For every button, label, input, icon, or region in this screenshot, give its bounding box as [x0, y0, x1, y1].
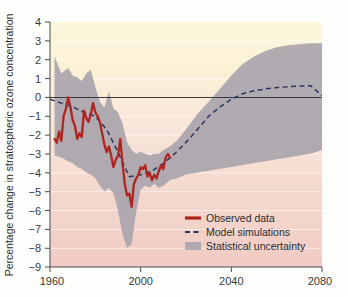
y-axis-title: Percentage change in stratospheric ozone…: [3, 14, 15, 277]
y-tick-label: −8: [28, 242, 41, 254]
y-tick-label: −1: [28, 110, 41, 122]
y-tick-label: 4: [35, 16, 41, 28]
x-tick-label: 2080: [308, 275, 332, 287]
y-tick-label: −6: [28, 205, 41, 217]
y-tick-label: −7: [28, 223, 41, 235]
x-tick-label: 2040: [219, 275, 243, 287]
y-tick-label: −3: [28, 148, 41, 160]
y-tick-label: −4: [28, 167, 41, 179]
x-tick-label: 2000: [128, 275, 152, 287]
chart-canvas: 4 3 2 1 0 −1 −2 −3 −4 −5 −6 −7 −8 −9 196…: [0, 0, 347, 298]
legend-swatch-statistical-uncertainty: [185, 242, 201, 250]
legend-label-observed-data: Observed data: [206, 212, 275, 224]
y-tick-label: −9: [28, 261, 41, 273]
y-tick-label: 1: [35, 73, 41, 85]
legend-label-model-simulations: Model simulations: [206, 226, 290, 238]
legend-label-statistical-uncertainty: Statistical uncertainty: [206, 240, 306, 252]
y-tick-label: 3: [35, 35, 41, 47]
x-tick-label: 1960: [40, 275, 64, 287]
y-tick-label: −5: [28, 186, 41, 198]
ozone-chart-figure: 4 3 2 1 0 −1 −2 −3 −4 −5 −6 −7 −8 −9 196…: [0, 0, 347, 298]
y-tick-label: −2: [28, 129, 41, 141]
y-tick-label: 0: [35, 91, 41, 103]
y-tick-label: 2: [35, 54, 41, 66]
